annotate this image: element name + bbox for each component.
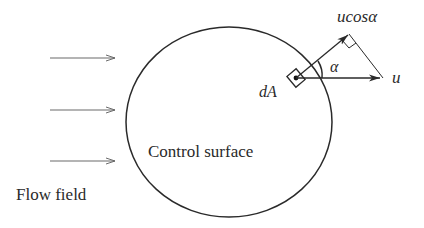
projection-line — [349, 34, 383, 78]
element-area-label: dA — [259, 83, 277, 100]
velocity-label: u — [392, 68, 401, 87]
control-surface-ellipse — [126, 27, 332, 217]
flow-field-label: Flow field — [16, 185, 87, 204]
normal-component-label: ucosα — [337, 7, 378, 26]
control-surface-label: Control surface — [148, 142, 253, 161]
control-surface-diagram: ucosα α u dA Control surface Flow field — [0, 0, 424, 228]
flow-field-arrows — [50, 58, 115, 161]
angle-label: α — [330, 58, 339, 75]
right-angle-marker — [342, 40, 356, 48]
